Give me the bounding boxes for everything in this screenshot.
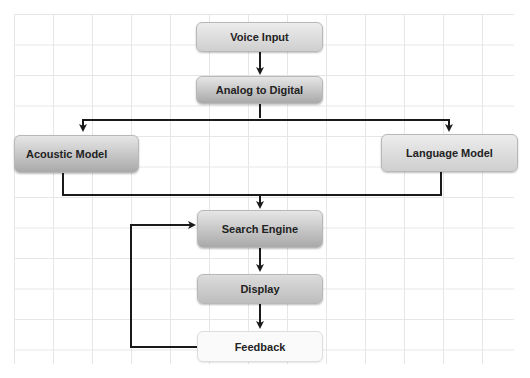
node-voice-input[interactable]: Voice Input	[196, 22, 323, 52]
node-feedback[interactable]: Feedback	[197, 331, 323, 362]
node-label: Feedback	[235, 341, 286, 353]
node-label: Acoustic Model	[26, 148, 107, 160]
connectors	[0, 0, 530, 378]
edge-language-to-join	[260, 172, 441, 195]
node-label: Analog to Digital	[216, 84, 303, 96]
edge-acoustic-to-join	[63, 173, 260, 195]
node-label: Search Engine	[222, 223, 298, 235]
node-acoustic-model[interactable]: Acoustic Model	[14, 135, 139, 173]
node-display[interactable]: Display	[197, 274, 323, 304]
node-label: Display	[240, 283, 279, 295]
node-label: Voice Input	[230, 31, 288, 43]
edge-analog-to-language	[260, 120, 449, 130]
node-analog-to-digital[interactable]: Analog to Digital	[196, 76, 323, 104]
edge-analog-to-acoustic	[83, 120, 260, 130]
node-search-engine[interactable]: Search Engine	[197, 210, 323, 248]
edge-feedback-to-search	[131, 225, 197, 347]
node-label: Language Model	[406, 147, 493, 159]
node-language-model[interactable]: Language Model	[381, 134, 518, 172]
